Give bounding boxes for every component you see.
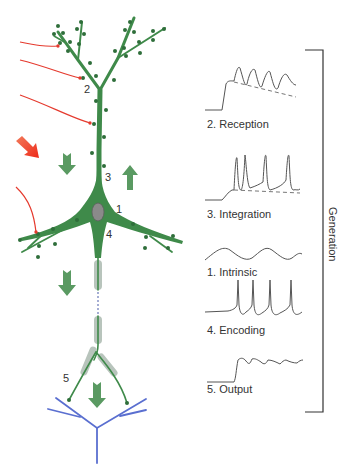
nucleus — [92, 203, 104, 221]
label-reception: 2. Reception — [207, 118, 269, 130]
axon — [67, 258, 129, 405]
red-input-arrow-icon — [20, 95, 90, 123]
up-arrow-icon — [122, 165, 138, 190]
label-intrinsic: 1. Intrinsic — [207, 266, 258, 278]
waveform-encoding: 4. Encoding — [205, 280, 302, 336]
waveform-integration: 3. Integration — [205, 155, 300, 220]
label-1: 1 — [116, 203, 122, 215]
generation-bracket: Generation — [305, 50, 339, 412]
label-5: 5 — [63, 372, 69, 384]
dendritic-spines — [52, 20, 166, 168]
down-arrow-icon — [58, 153, 76, 175]
label-3: 3 — [105, 171, 111, 183]
red-input-arrow-icon — [16, 187, 36, 232]
down-arrow-icon — [88, 382, 106, 408]
waveform-reception: 2. Reception — [205, 67, 296, 130]
waveform-intrinsic: 1. Intrinsic — [205, 248, 302, 278]
red-input-arrow-icon — [20, 60, 80, 78]
generation-label: Generation — [327, 207, 339, 261]
label-integration: 3. Integration — [207, 208, 271, 220]
red-input-arrow-icon — [20, 42, 58, 46]
label-encoding: 4. Encoding — [207, 324, 265, 336]
dendritic-tuft — [54, 18, 165, 90]
neuron-diagram: 2 3 1 4 5 2. Reception 3. Integration 1.… — [0, 0, 346, 473]
label-2: 2 — [84, 83, 90, 95]
label-output: 5. Output — [207, 383, 252, 395]
synaptic-input-arrows — [16, 42, 90, 232]
label-4: 4 — [106, 228, 112, 240]
waveform-output: 5. Output — [207, 358, 303, 395]
red-modulation-arrow-icon — [16, 136, 39, 158]
down-arrow-icon — [58, 270, 76, 296]
